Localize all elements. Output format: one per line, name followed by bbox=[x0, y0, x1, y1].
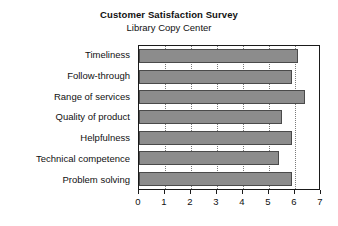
x-tick-label: 2 bbox=[187, 195, 192, 208]
x-tick-label: 1 bbox=[161, 195, 166, 208]
chart-subtitle: Library Copy Center bbox=[0, 21, 338, 34]
bar bbox=[139, 151, 279, 165]
x-tick-label: 4 bbox=[239, 195, 244, 208]
x-tick-label: 0 bbox=[135, 195, 140, 208]
bar-row bbox=[139, 49, 319, 63]
x-tick-mark bbox=[138, 190, 139, 194]
x-tick-mark bbox=[320, 190, 321, 194]
x-tick-label: 5 bbox=[265, 195, 270, 208]
plot-area bbox=[139, 46, 319, 189]
y-axis-category-labels: TimelinessFollow-throughRange of service… bbox=[0, 45, 134, 190]
x-tick-mark bbox=[190, 190, 191, 194]
x-tick-label: 6 bbox=[291, 195, 296, 208]
bar bbox=[139, 172, 292, 186]
bar-row bbox=[139, 151, 319, 165]
x-tick-label: 7 bbox=[317, 195, 322, 208]
bar-row bbox=[139, 110, 319, 124]
x-tick-mark bbox=[242, 190, 243, 194]
bar bbox=[139, 90, 305, 104]
x-tick-mark bbox=[164, 190, 165, 194]
category-label: Follow-through bbox=[0, 69, 134, 83]
bar-row bbox=[139, 90, 319, 104]
x-tick-mark bbox=[268, 190, 269, 194]
x-tick-mark bbox=[294, 190, 295, 194]
bar-row bbox=[139, 131, 319, 145]
category-label: Timeliness bbox=[0, 48, 134, 62]
category-label: Range of services bbox=[0, 90, 134, 104]
x-axis-tick-marks bbox=[138, 190, 320, 194]
chart-title: Customer Satisfaction Survey bbox=[0, 9, 338, 21]
category-label: Quality of product bbox=[0, 110, 134, 124]
x-axis-tick-labels: 01234567 bbox=[138, 195, 320, 209]
bar bbox=[139, 70, 292, 84]
category-label: Problem solving bbox=[0, 173, 134, 187]
bar bbox=[139, 110, 282, 124]
category-label: Helpfulness bbox=[0, 131, 134, 145]
chart-container: Customer Satisfaction Survey Library Cop… bbox=[0, 0, 338, 226]
category-label: Technical competence bbox=[0, 152, 134, 166]
bar-series bbox=[139, 46, 319, 189]
bar bbox=[139, 131, 292, 145]
title-block: Customer Satisfaction Survey Library Cop… bbox=[0, 9, 338, 34]
x-tick-mark bbox=[216, 190, 217, 194]
bar-row bbox=[139, 172, 319, 186]
x-tick-label: 3 bbox=[213, 195, 218, 208]
bar-row bbox=[139, 70, 319, 84]
plot-frame bbox=[138, 45, 320, 190]
bar bbox=[139, 49, 298, 63]
